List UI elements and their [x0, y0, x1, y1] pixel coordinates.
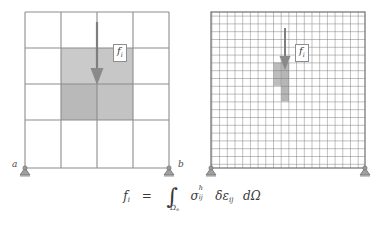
- figure-container: fi a: [0, 0, 384, 236]
- strain-subscript: ij: [229, 196, 233, 204]
- node-label-b: b: [178, 160, 184, 169]
- equation-equals: =: [142, 189, 152, 203]
- coarse-support-b: [164, 166, 174, 176]
- coarse-mesh-panel: fi a: [0, 0, 196, 190]
- equation-block: fi = ∫ Ωe σhij δεij dΩ: [0, 188, 384, 206]
- stress-indices: hij: [199, 190, 206, 202]
- integral-domain: Ωe: [170, 205, 179, 212]
- equation-expression: fi = ∫ Ωe σhij δεij dΩ: [123, 188, 260, 206]
- equation-lhs-subscript: i: [128, 196, 130, 204]
- equation-integral: ∫ Ωe: [166, 188, 177, 206]
- fine-force-subscript: i: [303, 51, 305, 59]
- measure-symbol: Ω: [251, 189, 261, 203]
- variation-symbol: δ: [215, 189, 222, 203]
- shaded-cell: [61, 84, 97, 120]
- fine-mesh-svg: [196, 0, 384, 190]
- shaded-cell: [97, 84, 133, 120]
- coarse-force-label: fi: [113, 44, 127, 62]
- differential-symbol: d: [243, 189, 251, 203]
- fine-mesh-panel: fi: [196, 0, 384, 190]
- shaded-cell: [61, 48, 97, 84]
- stress-superscript: h: [199, 185, 203, 192]
- stress-symbol: σ: [190, 189, 198, 203]
- integral-domain-subscript: e: [176, 206, 179, 212]
- coarse-mesh-svg: [0, 0, 196, 190]
- fine-grid-fill: [211, 12, 365, 168]
- coarse-force-subscript: i: [121, 51, 123, 59]
- node-label-a: a: [12, 160, 17, 169]
- fine-force-label: fi: [295, 44, 309, 62]
- stress-subscript: ij: [199, 194, 203, 201]
- coarse-support-a: [20, 166, 30, 176]
